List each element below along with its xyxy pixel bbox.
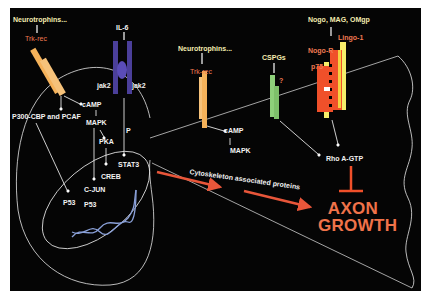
ligand-cspgs: CSPGs: [262, 54, 286, 61]
label-mapk-cone: MAPK: [230, 147, 251, 154]
label-p300-cbp-pcaf: P300-CBP and PCAF: [12, 113, 81, 120]
label-p53-left: P53: [63, 199, 75, 206]
trk-receptor-cell-body: [30, 46, 66, 98]
label-p75: p75: [311, 63, 323, 70]
label-jak2-left: jak2: [97, 82, 111, 89]
label-p53-center: P53: [84, 201, 96, 208]
trk-receptor-growth-cone: [199, 71, 207, 128]
ligand-neurotrophins-cone: Neurotrophins...: [178, 45, 232, 52]
label-c-jun: C-JUN: [84, 186, 105, 193]
label-pka: PKA: [99, 138, 114, 145]
label-jak2-right: jak2: [132, 82, 146, 89]
label-mapk-cell: MAPK: [86, 119, 107, 126]
growth-cone-edge: [398, 56, 414, 288]
ligand-il6: IL-6: [116, 24, 128, 31]
label-nogo-r: Nogo-R: [308, 47, 333, 54]
transport-arrow-2: [244, 191, 310, 207]
label-rho-a-gtp: Rho A-GTP: [326, 155, 363, 162]
label-stat3: STAT3: [118, 161, 139, 168]
label-camp-cell: cAMP: [82, 101, 101, 108]
dna-helix: [72, 190, 136, 237]
label-lingo-1: Lingo-1: [338, 34, 363, 41]
outcome-axon-growth: AXON GROWTH: [318, 200, 388, 235]
label-phospho: P: [126, 127, 131, 134]
outcome-line-1: AXON: [318, 200, 388, 217]
label-creb: CREB: [101, 173, 121, 180]
nucleus-outline: [25, 133, 167, 267]
il6-receptor: [113, 41, 132, 94]
ligand-neurotrophins-cell: Neurotrophins...: [13, 16, 67, 23]
label-trk-rec-cone: Trk-rec: [190, 68, 212, 75]
growth-cone-signaling-lines: [207, 120, 339, 156]
outcome-line-2: GROWTH: [318, 217, 388, 234]
label-unknown-receptor: ?: [279, 77, 283, 84]
inhibition-symbol: [339, 166, 363, 191]
cspg-receptor: [270, 75, 279, 119]
ligand-nogo-mag-omgp: Nogo, MAG, OMgp: [308, 16, 370, 23]
label-camp-cone: cAMP: [224, 127, 243, 134]
label-trk-rec-cell: Trk-rec: [25, 35, 47, 42]
